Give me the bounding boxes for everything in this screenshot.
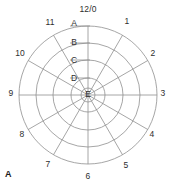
hour-label-6: 6 — [86, 172, 91, 181]
hour-label-9: 9 — [9, 89, 14, 98]
ring-label-B: B — [71, 38, 77, 47]
hour-label-12-0: 12/0 — [80, 5, 97, 14]
hour-label-1: 1 — [125, 17, 130, 26]
ring-label-E: E — [85, 90, 91, 99]
hour-label-11: 11 — [45, 18, 54, 27]
grid-spoke-4 — [88, 95, 148, 130]
hour-label-2: 2 — [151, 49, 156, 58]
grid-spoke-7 — [54, 95, 89, 155]
hour-label-5: 5 — [124, 161, 129, 170]
hour-label-4: 4 — [150, 130, 155, 139]
hour-label-10: 10 — [15, 49, 25, 58]
grid-spoke-1 — [88, 35, 123, 95]
grid-spoke-5 — [88, 95, 123, 155]
grid-spoke-8 — [28, 95, 88, 130]
ring-label-D: D — [71, 74, 77, 83]
ring-ticks-group — [70, 26, 90, 78]
figure-caption: A — [5, 170, 12, 179]
ring-label-C: C — [71, 56, 77, 65]
hour-label-3: 3 — [161, 89, 166, 98]
hour-label-8: 8 — [20, 130, 25, 139]
grid-spoke-2 — [88, 61, 148, 96]
ring-label-A: A — [71, 19, 77, 28]
polar-grid-diagram: 12/01234567891011 ABCDE A — [0, 0, 174, 187]
hour-label-7: 7 — [46, 160, 51, 169]
